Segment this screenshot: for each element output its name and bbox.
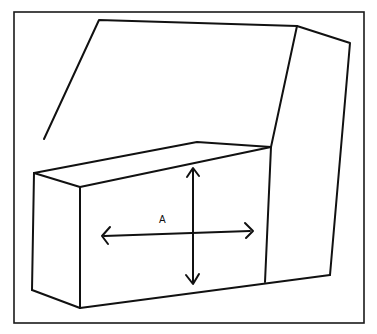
cross-arrow <box>102 168 253 284</box>
front-box <box>32 142 330 308</box>
horizontal-arrow-shaft <box>104 231 250 236</box>
label-a: A <box>159 214 166 225</box>
back-top-outline <box>44 20 350 275</box>
back-vertical-edge <box>271 26 297 147</box>
box-bottom-edge <box>80 275 330 308</box>
box-bottom-left-edge <box>32 290 80 308</box>
box-top-back-edge <box>34 142 271 173</box>
box-front-top-edge <box>80 147 271 187</box>
box-left-vertical <box>32 173 34 290</box>
inner-vertical-edge <box>265 147 271 282</box>
diagram-canvas: A <box>0 0 377 334</box>
box-top-front-edge <box>34 173 80 187</box>
back-section <box>44 20 350 282</box>
